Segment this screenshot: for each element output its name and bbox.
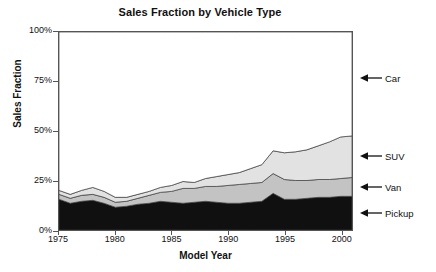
x-tick-mark: [285, 231, 286, 235]
annotation-car: Car: [360, 71, 400, 85]
x-tick-label: 1980: [95, 234, 135, 244]
x-tick-label: 2000: [322, 234, 362, 244]
annotation-label: Car: [385, 73, 400, 84]
chart-container: Sales Fraction by Vehicle Type Sales Fra…: [0, 0, 436, 272]
x-tick-label: 1995: [265, 234, 305, 244]
x-tick-label: 1985: [151, 234, 191, 244]
annotation-pickup: Pickup: [360, 206, 414, 220]
left-arrow-icon: [360, 182, 382, 192]
x-tick-label: 1975: [38, 234, 78, 244]
x-tick-mark: [58, 231, 59, 235]
plot-area: [58, 31, 353, 231]
left-arrow-icon: [360, 151, 382, 161]
x-tick-mark: [171, 231, 172, 235]
y-tick-label: 50%: [8, 125, 52, 135]
annotation-van: Van: [360, 180, 401, 194]
annotation-label: Van: [385, 182, 401, 193]
x-tick-mark: [228, 231, 229, 235]
y-tick-label: 25%: [8, 175, 52, 185]
y-tick-label: 100%: [8, 25, 52, 35]
annotation-label: Pickup: [385, 208, 414, 219]
annotation-suv: SUV: [360, 149, 405, 163]
x-tick-mark: [115, 231, 116, 235]
left-arrow-icon: [360, 208, 382, 218]
stacked-area-plot: [59, 32, 352, 230]
x-tick-mark: [342, 231, 343, 235]
x-tick-label: 1990: [208, 234, 248, 244]
x-axis-title: Model Year: [58, 250, 353, 261]
chart-title: Sales Fraction by Vehicle Type: [0, 6, 400, 18]
y-tick-label: 75%: [8, 75, 52, 85]
left-arrow-icon: [360, 73, 382, 83]
annotation-label: SUV: [385, 151, 405, 162]
